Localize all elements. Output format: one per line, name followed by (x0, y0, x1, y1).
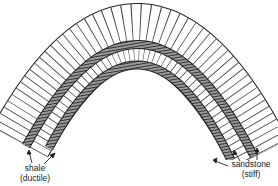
fold-layers (20, 35, 260, 160)
sandstone-label: sandstone (stiff) (224, 160, 278, 179)
sandstone-label-property: (stiff) (224, 170, 278, 180)
shale-label: shale (ductile) (10, 164, 60, 183)
shale-label-property: (ductile) (10, 174, 60, 184)
